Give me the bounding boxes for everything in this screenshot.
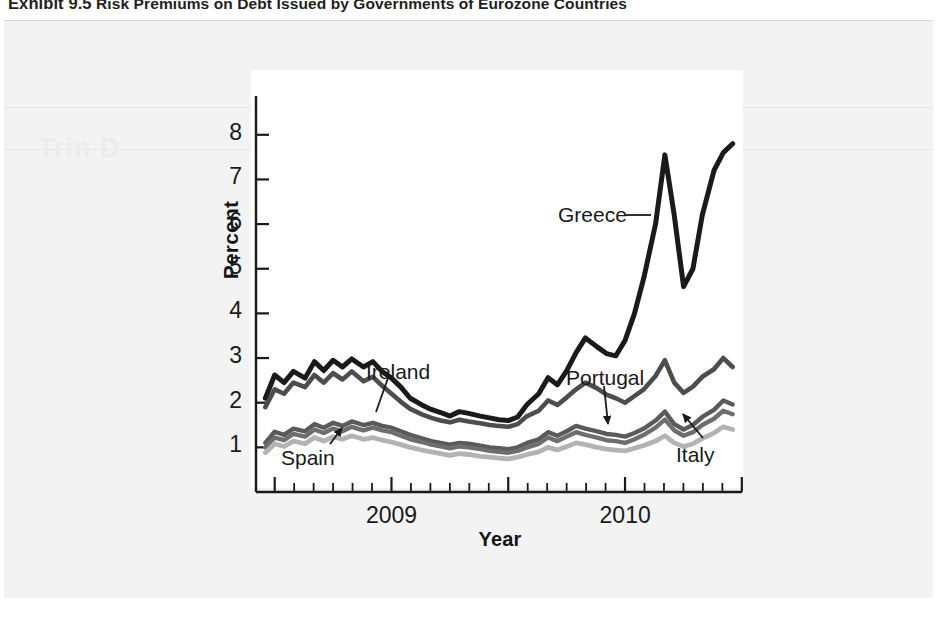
y-tick-label: 2 — [212, 387, 242, 414]
y-tick-label: 3 — [212, 342, 242, 369]
y-tick-label: 5 — [212, 253, 242, 280]
series-label-spain: Spain — [281, 446, 335, 470]
series-label-portugal: Portugal — [566, 366, 644, 390]
y-tick-label: 4 — [212, 297, 242, 324]
exhibit-page: Exhibit 9.5 Risk Premiums on Debt Issued… — [0, 0, 941, 617]
series-line-italy — [265, 427, 732, 459]
y-tick-label: 8 — [212, 119, 242, 146]
x-tick-label: 2009 — [332, 502, 452, 529]
series-label-ireland: Ireland — [366, 360, 430, 384]
y-tick-label: 6 — [212, 208, 242, 235]
series-line-greece — [265, 144, 732, 421]
y-tick-label: 7 — [212, 163, 242, 190]
chart-canvas — [0, 0, 941, 617]
x-tick-label: 2010 — [565, 502, 685, 529]
y-tick-label: 1 — [212, 431, 242, 458]
series-label-italy: Italy — [676, 443, 715, 467]
x-axis-title: Year — [440, 528, 560, 551]
series-label-greece: Greece — [558, 203, 627, 227]
